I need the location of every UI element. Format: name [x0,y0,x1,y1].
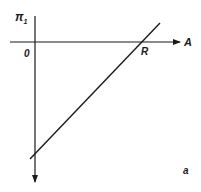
panel-label: a [183,165,189,176]
intercept-label: R [141,46,149,57]
profit-line [30,23,160,159]
diagram: π1 0 R A a [0,0,201,192]
vertical-axis-label: π1 [15,10,28,25]
origin-label: 0 [24,48,30,59]
horizontal-axis-label: A [183,36,192,48]
